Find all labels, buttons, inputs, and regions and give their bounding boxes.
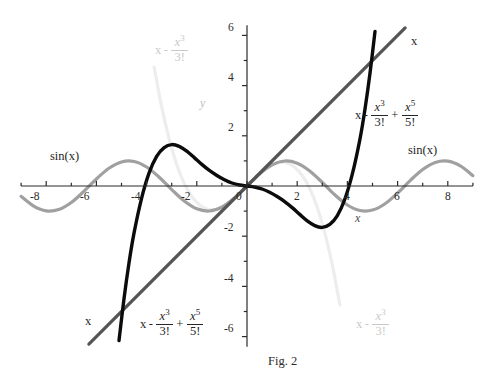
curve-label-taylor3-top: x - x3 3!	[155, 36, 189, 64]
axes-layer	[21, 25, 473, 346]
ytick-label--6: -6	[224, 323, 234, 335]
ytick-label-6: 6	[228, 22, 234, 34]
fraction-denominator: 5!	[402, 115, 418, 130]
fraction-x5-over-5fact: x5 5!	[187, 310, 203, 338]
math-exponent: 3	[165, 307, 170, 317]
fraction-numerator: x3	[157, 310, 173, 324]
x-axis-label: x	[355, 212, 360, 224]
xtick-label--8: -8	[30, 191, 40, 203]
fraction-numerator: x3	[373, 310, 389, 324]
xtick-label-2: 2	[294, 191, 300, 203]
fraction-x5-over-5fact: x5 5!	[402, 101, 418, 129]
curve-label-taylor5-bottom: x - x3 3! + x5 5!	[140, 310, 204, 338]
ytick-label-4: 4	[228, 72, 234, 84]
figure-container: -8 -6 -4 -2 0 2 4 6 8 6 4 2 -2 -4 -6 y x…	[0, 0, 492, 383]
figure-caption: Fig. 2	[268, 355, 297, 368]
math-minus-sign: -	[362, 318, 371, 331]
xtick-label--2: -2	[181, 191, 191, 203]
math-exponent: 5	[411, 98, 416, 108]
ytick-label-2: 2	[228, 122, 234, 134]
curve-label-sin-right: sin(x)	[408, 144, 437, 157]
curve-label-x-top-text: x	[411, 34, 417, 48]
xtick-label-0: 0	[236, 191, 242, 203]
fraction-x3-over-3fact: x3 3!	[171, 36, 187, 64]
ytick-label--4: -4	[224, 273, 234, 285]
curve-label-x-top: x	[411, 35, 417, 48]
xtick-label-6: 6	[394, 191, 400, 203]
curve-label-sin-right-text: sin(x)	[408, 143, 437, 157]
fraction-numerator: x5	[187, 310, 203, 324]
fraction-x3-over-3fact: x3 3!	[371, 101, 387, 129]
fraction-numerator: x5	[402, 101, 418, 115]
curve-label-sin-left: sin(x)	[50, 150, 79, 163]
xtick-label-8: 8	[445, 191, 451, 203]
curve-label-x-bottom: x	[85, 315, 91, 328]
math-exponent: 3	[381, 307, 386, 317]
xtick-label-4: 4	[344, 191, 350, 203]
curve-label-taylor3-bottom: x - x3 3!	[356, 310, 390, 338]
y-axis-label: y	[200, 97, 205, 109]
curve-label-x-bottom-text: x	[85, 314, 91, 328]
xtick-label--4: -4	[131, 191, 141, 203]
math-minus-sign: -	[161, 44, 170, 57]
fraction-x3-over-3fact: x3 3!	[372, 310, 388, 338]
math-plus-sign: +	[389, 109, 401, 122]
fraction-denominator: 3!	[371, 115, 387, 130]
ytick-label--2: -2	[224, 222, 234, 234]
fraction-denominator: 3!	[372, 324, 388, 339]
fraction-denominator: 3!	[171, 50, 187, 65]
math-minus-sign: -	[146, 318, 155, 331]
curve-label-taylor5-right: x - x3 3! + x5 5!	[355, 101, 419, 129]
fraction-x3-over-3fact: x3 3!	[156, 310, 172, 338]
curve-label-sin-left-text: sin(x)	[50, 149, 79, 163]
fraction-denominator: 3!	[156, 324, 172, 339]
fraction-denominator: 5!	[187, 324, 203, 339]
fraction-numerator: x3	[172, 36, 188, 50]
math-exponent: 3	[180, 33, 185, 43]
math-exponent: 3	[380, 98, 385, 108]
math-exponent: 5	[196, 307, 201, 317]
math-minus-sign: -	[361, 109, 370, 122]
plot-canvas	[0, 0, 492, 383]
fraction-numerator: x3	[372, 101, 388, 115]
math-plus-sign: +	[174, 318, 186, 331]
xtick-label--6: -6	[80, 191, 90, 203]
